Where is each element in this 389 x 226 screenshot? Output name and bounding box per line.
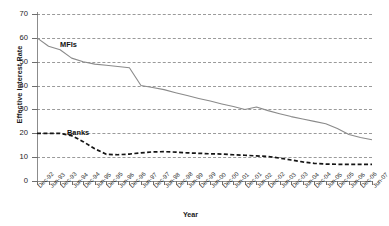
x-axis-title: Year <box>0 210 381 219</box>
y-tick-10 <box>32 157 38 158</box>
y-tick-label-20: 20 <box>0 128 28 137</box>
y-tick-label-10: 10 <box>0 152 28 161</box>
series-label-mfis: MFIs <box>60 40 77 49</box>
y-tick-30 <box>32 109 38 110</box>
plot-area <box>37 14 372 181</box>
y-tick-20 <box>32 133 38 134</box>
gridline-10 <box>37 157 372 158</box>
series-label-banks: Banks <box>67 128 89 137</box>
y-tick-label-30: 30 <box>0 104 28 113</box>
gridline-70 <box>37 14 372 15</box>
y-tick-label-0: 0 <box>0 176 28 185</box>
y-tick-label-40: 40 <box>0 81 28 90</box>
y-tick-label-60: 60 <box>0 33 28 42</box>
y-tick-label-70: 70 <box>0 9 28 18</box>
y-tick-50 <box>32 62 38 63</box>
y-tick-70 <box>32 14 38 15</box>
gridline-50 <box>37 62 372 63</box>
y-tick-label-50: 50 <box>0 57 28 66</box>
y-tick-40 <box>32 86 38 87</box>
gridline-60 <box>37 38 372 39</box>
y-tick-60 <box>32 38 38 39</box>
gridline-40 <box>37 86 372 87</box>
gridline-30 <box>37 109 372 110</box>
